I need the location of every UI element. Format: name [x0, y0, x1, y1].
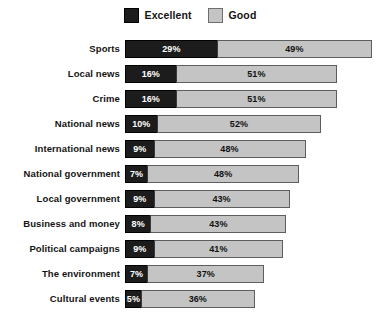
bar-segment-excellent[interactable]: 16%: [125, 90, 176, 108]
bar-segment-good[interactable]: 43%: [150, 215, 286, 233]
bar-segment-excellent[interactable]: 10%: [125, 115, 157, 133]
bar-track: 10%52%: [125, 115, 321, 133]
bar-segment-excellent[interactable]: 5%: [125, 290, 141, 308]
bar-segment-good[interactable]: 49%: [217, 40, 372, 58]
category-label: Cultural events: [0, 290, 120, 308]
bar-track: 5%36%: [125, 290, 255, 308]
category-label: The environment: [0, 265, 120, 283]
chart-row: Crime16%51%: [0, 90, 380, 115]
chart-row: Sports29%49%: [0, 40, 380, 65]
chart-row: Local news16%51%: [0, 65, 380, 90]
bar-track: 7%48%: [125, 165, 299, 183]
legend-swatch-excellent-icon: [124, 8, 139, 23]
category-label: International news: [0, 140, 120, 158]
bar-segment-good[interactable]: 48%: [147, 165, 299, 183]
category-label: National government: [0, 165, 120, 183]
category-label: Crime: [0, 90, 120, 108]
bar-track: 9%41%: [125, 240, 283, 258]
bar-segment-good[interactable]: 48%: [154, 140, 306, 158]
chart-row: National government7%48%: [0, 165, 380, 190]
bar-track: 9%48%: [125, 140, 306, 158]
bar-track: 8%43%: [125, 215, 286, 233]
category-label: Local government: [0, 190, 120, 208]
category-label: Business and money: [0, 215, 120, 233]
chart-plot-area: Sports29%49%Local news16%51%Crime16%51%N…: [0, 40, 380, 315]
chart-legend: ExcellentGood: [0, 8, 380, 23]
bar-track: 29%49%: [125, 40, 372, 58]
legend-swatch-good-icon: [208, 8, 223, 23]
bar-segment-good[interactable]: 52%: [157, 115, 322, 133]
category-label: Sports: [0, 40, 120, 58]
chart-row: Local government9%43%: [0, 190, 380, 215]
bar-segment-good[interactable]: 36%: [141, 290, 255, 308]
bar-segment-excellent[interactable]: 7%: [125, 265, 147, 283]
legend-entry-good[interactable]: Good: [208, 8, 257, 23]
bar-segment-good[interactable]: 37%: [147, 265, 264, 283]
chart-row: Political campaigns9%41%: [0, 240, 380, 265]
chart-row: National news10%52%: [0, 115, 380, 140]
bar-track: 9%43%: [125, 190, 290, 208]
chart-row: Cultural events5%36%: [0, 290, 380, 315]
bar-segment-good[interactable]: 43%: [154, 190, 290, 208]
category-label: Local news: [0, 65, 120, 83]
chart-row: The environment7%37%: [0, 265, 380, 290]
bar-segment-excellent[interactable]: 9%: [125, 190, 154, 208]
bar-segment-excellent[interactable]: 16%: [125, 65, 176, 83]
bar-track: 16%51%: [125, 65, 337, 83]
category-label: National news: [0, 115, 120, 133]
bar-segment-good[interactable]: 51%: [176, 65, 338, 83]
bar-segment-excellent[interactable]: 8%: [125, 215, 150, 233]
bar-segment-excellent[interactable]: 9%: [125, 240, 154, 258]
bar-segment-excellent[interactable]: 7%: [125, 165, 147, 183]
stacked-bar-chart: ExcellentGood Sports29%49%Local news16%5…: [0, 0, 380, 323]
legend-entry-excellent[interactable]: Excellent: [124, 8, 192, 23]
bar-segment-good[interactable]: 41%: [154, 240, 284, 258]
legend-label-good: Good: [229, 10, 257, 21]
bar-track: 7%37%: [125, 265, 264, 283]
chart-row: International news9%48%: [0, 140, 380, 165]
chart-row: Business and money8%43%: [0, 215, 380, 240]
bar-segment-excellent[interactable]: 29%: [125, 40, 217, 58]
bar-segment-good[interactable]: 51%: [176, 90, 338, 108]
category-label: Political campaigns: [0, 240, 120, 258]
legend-label-excellent: Excellent: [145, 10, 192, 21]
bar-segment-excellent[interactable]: 9%: [125, 140, 154, 158]
bar-track: 16%51%: [125, 90, 337, 108]
